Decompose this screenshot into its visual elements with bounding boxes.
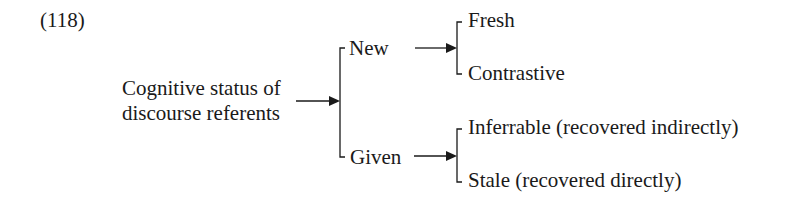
arrow-head-root [329,96,340,106]
connector-lines [0,0,798,205]
arrow-head-new [446,43,457,53]
arrow-head-given [446,151,457,161]
